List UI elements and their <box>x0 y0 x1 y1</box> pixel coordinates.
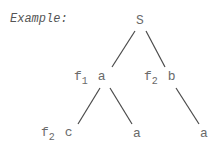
node-label: a <box>98 69 106 84</box>
function-symbol: f <box>144 69 152 84</box>
node-label: S <box>136 13 144 28</box>
node-label: a <box>200 126 208 141</box>
tree-edges <box>0 0 220 153</box>
node-f1-a: f1 a <box>74 70 105 84</box>
function-symbol: f <box>74 69 82 84</box>
function-subscript: 2 <box>152 76 158 87</box>
node-f2-c: f2 c <box>41 126 72 140</box>
edge-a-a <box>110 88 132 124</box>
function-subscript: 2 <box>49 132 55 143</box>
edge-b-a <box>176 88 199 124</box>
node-f2-b: f2 b <box>144 70 175 84</box>
node-leaf-a-2: a <box>200 127 208 140</box>
node-label: b <box>168 69 176 84</box>
node-label: a <box>133 126 141 141</box>
edge-s-b <box>146 31 165 67</box>
node-label: c <box>65 125 73 140</box>
edge-a-c <box>78 88 100 124</box>
function-subscript: 1 <box>82 76 88 87</box>
edge-s-a <box>112 31 135 67</box>
node-root-s: S <box>136 14 144 27</box>
node-leaf-a-1: a <box>133 127 141 140</box>
function-symbol: f <box>41 125 49 140</box>
